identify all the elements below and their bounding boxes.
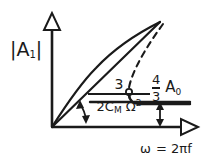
x-axis xyxy=(52,119,198,135)
level-marker-arrow xyxy=(156,102,164,127)
slope-denominator-subscript: M xyxy=(114,105,122,115)
y-axis-label: |A1| xyxy=(10,40,42,60)
slope-fraction-rule xyxy=(88,93,150,95)
amplitude-fraction-denominator: 3 xyxy=(152,90,160,103)
x-axis-label-expression: = 2πf xyxy=(152,141,192,156)
amplitude-fraction-numerator: 4 xyxy=(152,74,160,86)
amplitude-level-annotation: 4 3 A0 xyxy=(152,74,181,103)
y-axis-label-open: |A xyxy=(10,38,29,60)
amplitude-symbol: A0 xyxy=(165,80,181,97)
amplitude-response-figure: |A1| ω = 2πf 3 2CM Ω2 4 3 A0 xyxy=(0,0,218,164)
slope-denominator-exponent: 2 xyxy=(136,98,142,108)
amplitude-symbol-subscript: 0 xyxy=(176,87,182,97)
slope-fraction-annotation: 3 2CM Ω2 xyxy=(88,78,150,117)
x-axis-label-variable: ω xyxy=(140,141,152,156)
y-axis-label-close: | xyxy=(36,38,42,60)
slope-denominator-omega: Ω xyxy=(122,99,136,114)
slope-fraction-numerator: 3 xyxy=(88,78,150,91)
y-axis xyxy=(44,13,60,127)
slope-denominator-lead: 2C xyxy=(97,99,114,114)
amplitude-symbol-base: A xyxy=(165,78,175,96)
amplitude-fraction: 4 3 xyxy=(152,74,160,103)
slope-fraction-denominator: 2CM Ω2 xyxy=(88,96,150,117)
x-axis-label: ω = 2πf xyxy=(140,142,192,155)
